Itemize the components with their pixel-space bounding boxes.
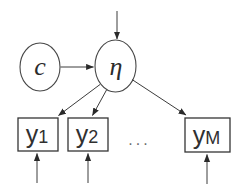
arrow-latent-to-indicator-1 xyxy=(59,85,101,116)
indicator-y1-base: y xyxy=(26,120,39,148)
indicator-ym-sub: M xyxy=(205,128,220,148)
arrow-latent-to-indicator-m xyxy=(132,80,186,116)
indicator-y2-base: y xyxy=(76,120,89,148)
indicator-ym-base: y xyxy=(193,121,206,149)
path-diagram-figure: c η y1 y2 yM ... xyxy=(0,0,241,188)
latent-label: η xyxy=(110,52,123,81)
path-diagram-canvas: c η y1 y2 yM ... xyxy=(0,0,241,188)
indicator-y1-sub: 1 xyxy=(38,127,48,147)
ellipsis-label: ... xyxy=(128,131,150,148)
covariate-label: c xyxy=(34,52,46,81)
arrow-latent-to-indicator-2 xyxy=(93,90,107,116)
indicator-y2-sub: 2 xyxy=(88,127,98,147)
